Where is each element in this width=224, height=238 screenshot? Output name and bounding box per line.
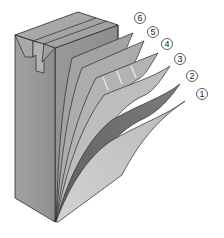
label-6: 6 <box>135 13 146 24</box>
label-5: 5 <box>148 27 159 38</box>
label-1: 1 <box>197 89 208 100</box>
layers <box>56 33 185 222</box>
label-6-text: 6 <box>137 13 142 23</box>
label-4-text: 4 <box>164 39 169 49</box>
label-3-text: 3 <box>177 54 182 64</box>
label-2: 2 <box>187 71 198 82</box>
carton-front-face <box>15 35 55 222</box>
label-5-text: 5 <box>150 27 155 37</box>
label-4: 4 <box>162 39 173 50</box>
carton-layers-diagram: 6 5 4 3 2 1 <box>0 0 224 238</box>
label-2-text: 2 <box>189 71 194 81</box>
label-3: 3 <box>175 54 186 65</box>
label-1-text: 1 <box>199 89 204 99</box>
